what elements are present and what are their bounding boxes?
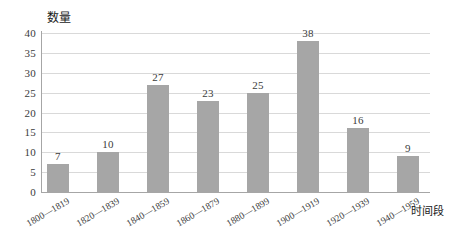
gridline (41, 33, 430, 34)
x-axis-tick-label: 1820—1839 (68, 196, 121, 233)
y-axis-tick-label: 35 (2, 47, 36, 59)
y-axis-title: 数量 (47, 8, 71, 25)
gridline (41, 53, 430, 54)
y-axis-ticks: 0510152025303540 (0, 33, 36, 192)
y-axis-tick-label: 25 (2, 87, 36, 99)
bar-value-label: 9 (386, 142, 430, 154)
y-axis-tick-label: 30 (2, 67, 36, 79)
bar (347, 128, 369, 192)
bar-value-label: 25 (236, 79, 280, 91)
bar-value-label: 16 (336, 114, 380, 126)
bar-value-label: 10 (86, 138, 130, 150)
x-axis-tick-label: 1900—1919 (268, 196, 321, 233)
gridline (41, 113, 430, 114)
bar-value-label: 38 (286, 27, 330, 39)
gridline (41, 93, 430, 94)
x-axis-title: 时间段 (411, 202, 444, 218)
gridline (41, 73, 430, 74)
x-axis-tick-label: 1880—1899 (218, 196, 271, 233)
bar (97, 152, 119, 192)
x-axis-tick-label: 1920—1939 (318, 196, 371, 233)
bar (297, 41, 319, 192)
y-axis-tick-label: 5 (2, 166, 36, 178)
y-axis-tick-label: 20 (2, 107, 36, 119)
y-axis-line (41, 31, 42, 193)
y-axis-tick-label: 40 (2, 27, 36, 39)
bar (197, 101, 219, 192)
x-axis-tick-label: 1800—1819 (18, 196, 71, 233)
y-axis-tick-label: 10 (2, 146, 36, 158)
x-axis-tick-label: 1860—1879 (168, 196, 221, 233)
y-axis-tick-label: 15 (2, 126, 36, 138)
bar-value-label: 23 (186, 87, 230, 99)
bar-value-label: 27 (136, 71, 180, 83)
plot-area (41, 33, 430, 192)
bar (147, 85, 169, 192)
bar-value-label: 7 (36, 150, 80, 162)
bar (47, 164, 69, 192)
x-axis-line (41, 192, 430, 193)
y-axis-tick-label: 0 (2, 186, 36, 198)
bar (397, 156, 419, 192)
gridline (41, 132, 430, 133)
bar-chart: 数量 0510152025303540 1800—18191820—183918… (0, 0, 458, 249)
bar (247, 93, 269, 192)
x-axis-tick-label: 1840—1859 (118, 196, 171, 233)
